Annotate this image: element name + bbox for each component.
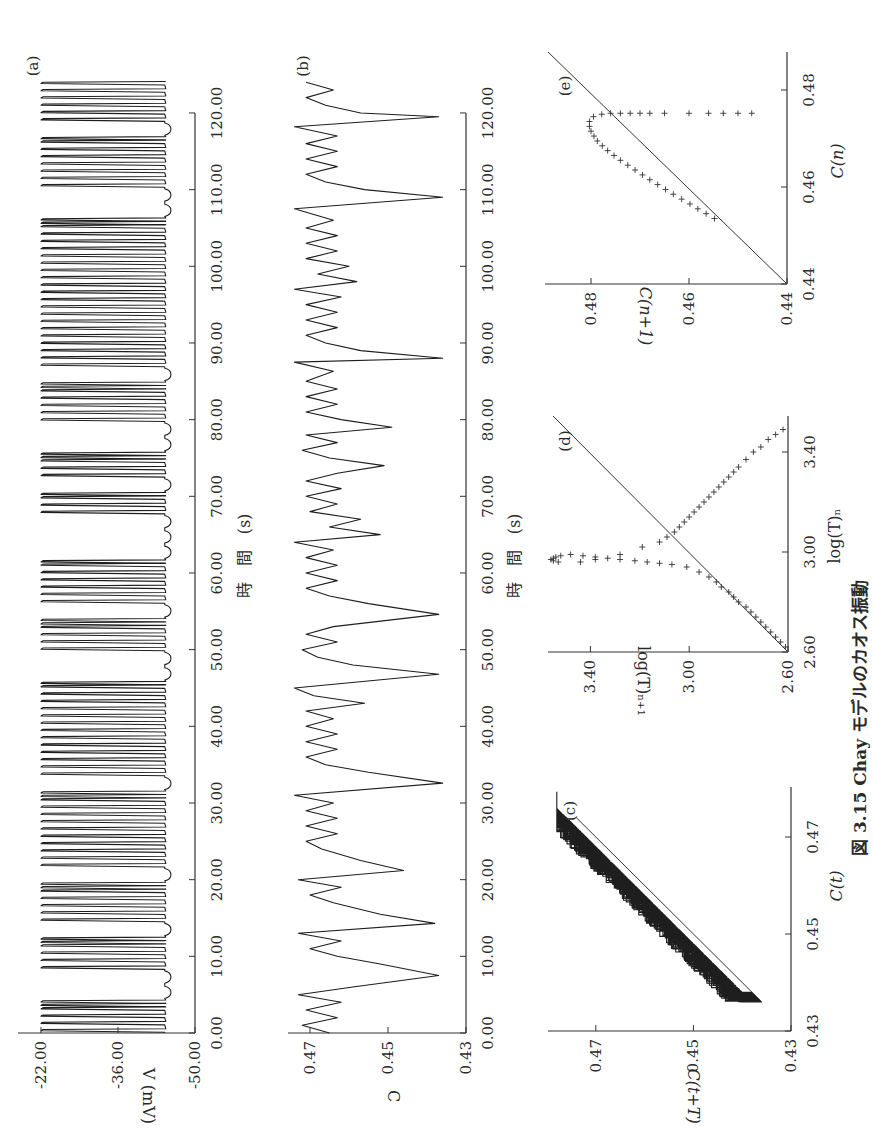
tick-label: 0.46 (680, 292, 698, 325)
tick-label: 70.00 (479, 475, 497, 518)
tick-label: -50.00 (186, 1041, 204, 1089)
tick-label: 60.00 (208, 552, 226, 595)
tick-label: 110.00 (479, 163, 497, 216)
tick-label: 100.00 (479, 240, 497, 293)
tick-label: 0.44 (800, 267, 818, 300)
panel-e-ylabel: C(n+1) (636, 287, 655, 346)
figure-caption: 図 3.15 Chay モデルのカオス振動 (850, 580, 870, 856)
tick-label: 10.00 (208, 935, 226, 978)
tick-label: 100.00 (208, 240, 226, 293)
tick-label: 50.00 (479, 628, 497, 671)
panel-a-xlabel: 時 間 (s) (235, 514, 254, 599)
tick-label: 0.00 (208, 1016, 226, 1049)
panel-e: 0.440.460.480.480.460.44 (e) C(n) C(n+1) (545, 52, 847, 345)
panel-e-xlabel: C(n) (828, 143, 847, 178)
panel-c-xlabel: C(t) (827, 870, 846, 901)
panel-d-xlabel: log(T)ₙ (825, 508, 844, 563)
tick-label: 0.43 (457, 1041, 475, 1074)
tick-label: -36.00 (109, 1041, 127, 1089)
tick-label: 50.00 (208, 628, 226, 671)
panel-b-label: (b) (294, 55, 312, 76)
tick-label: 10.00 (479, 935, 497, 978)
concentration-trace (294, 82, 442, 1033)
panel-d-label: (d) (556, 430, 574, 451)
tick-label: 0.43 (782, 1039, 800, 1072)
panel-a-ylabel: V (mV) (139, 1067, 158, 1124)
return-map-points (587, 110, 755, 221)
panel-b-xlabel: 時 間 (s) (505, 514, 524, 599)
tick-label: 30.00 (208, 782, 226, 825)
panel-b-y-ticks: 0.470.450.43 (301, 1027, 475, 1074)
tick-label: 120.00 (208, 87, 226, 140)
tick-label: 40.00 (208, 705, 226, 748)
panel-b-ylabel: C (384, 1090, 403, 1102)
panel-a: 0.0010.0020.0030.0040.0050.0060.0070.008… (18, 56, 226, 1124)
tick-label: 80.00 (479, 398, 497, 441)
tick-label: 2.60 (779, 660, 797, 693)
tick-label: 3.40 (581, 660, 599, 693)
voltage-trace (41, 81, 171, 1033)
tick-label: 0.46 (800, 170, 818, 203)
tick-label: 0.45 (804, 917, 822, 950)
tick-label: 0.48 (582, 292, 600, 325)
tick-label: 2.60 (801, 635, 819, 668)
tick-label: 20.00 (479, 858, 497, 901)
tick-label: 70.00 (208, 475, 226, 518)
tick-label: 90.00 (479, 321, 497, 364)
tick-label: 60.00 (479, 552, 497, 595)
tick-label: 0.47 (301, 1041, 319, 1074)
tick-label: 0.43 (804, 1014, 822, 1047)
panel-c-label: (c) (561, 801, 579, 821)
tick-label: 0.47 (587, 1039, 605, 1072)
tick-label: 90.00 (208, 321, 226, 364)
panel-e-identity-line (548, 52, 787, 284)
tick-label: 0.00 (479, 1016, 497, 1049)
panel-c: 0.430.450.470.470.450.43 (c) C(t) C(t+T) (548, 787, 846, 1124)
tick-label: 110.00 (208, 163, 226, 216)
tick-label: 0.44 (778, 292, 796, 325)
panel-c-ylabel: C(t+T) (684, 1068, 703, 1123)
panel-a-y-ticks: -22.00-36.00-50.00 (32, 1027, 204, 1089)
tick-label: 40.00 (479, 705, 497, 748)
panel-b: 0.0010.0020.0030.0040.0050.0060.0070.008… (288, 55, 524, 1102)
panel-d-ylabel: log(T)ₙ₊₁ (634, 646, 653, 716)
tick-label: 3.00 (680, 660, 698, 693)
tick-label: 120.00 (479, 87, 497, 140)
figure: 0.0010.0020.0030.0040.0050.0060.0070.008… (0, 0, 873, 1136)
attractor-band (557, 792, 762, 1002)
tick-label: 30.00 (479, 782, 497, 825)
panel-e-label: (e) (556, 76, 574, 97)
tick-label: -22.00 (32, 1041, 50, 1089)
panel-c-ticks: 0.430.450.470.470.450.43 (587, 820, 822, 1072)
tick-label: 0.47 (804, 820, 822, 853)
tick-label: 0.45 (379, 1041, 397, 1074)
tick-label: 3.40 (801, 435, 819, 468)
tick-label: 0.48 (800, 73, 818, 106)
tick-label: 20.00 (208, 858, 226, 901)
tick-label: 80.00 (208, 398, 226, 441)
panel-d-identity-line (553, 416, 788, 652)
tick-label: 3.00 (801, 535, 819, 568)
panel-d: 2.603.003.403.403.002.60 (d) log(T)ₙ log… (548, 416, 844, 716)
panel-a-label: (a) (24, 56, 42, 77)
